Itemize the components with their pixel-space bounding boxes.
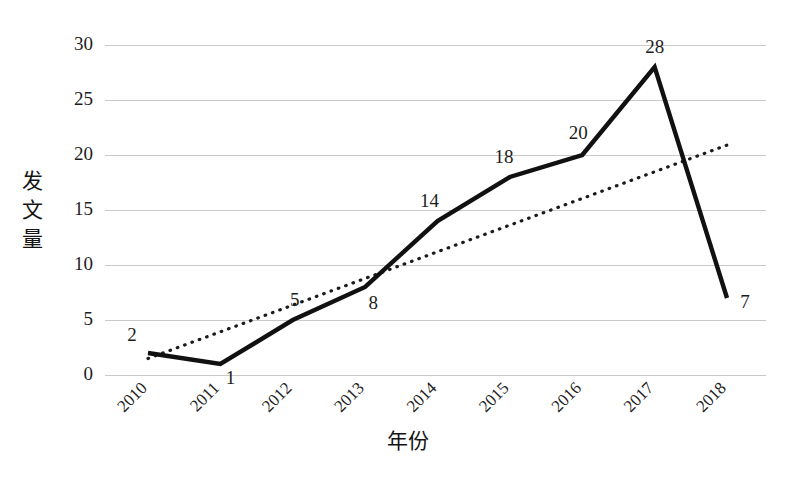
- y-axis-title-char: 量: [22, 227, 43, 251]
- y-axis-title: 发文量: [22, 169, 43, 251]
- y-axis-title-char: 文: [22, 198, 43, 222]
- data-label: 20: [569, 122, 588, 143]
- y-axis-title-char: 发: [22, 169, 43, 193]
- data-label: 14: [420, 190, 440, 211]
- chart-container: 051015202530 201020112012201320142015201…: [0, 0, 796, 488]
- y-axis-tick-label: 15: [74, 198, 93, 219]
- data-label: 7: [740, 291, 750, 312]
- data-label: 5: [290, 289, 300, 310]
- chart-background: [0, 0, 796, 488]
- y-axis-tick-label: 25: [74, 88, 93, 109]
- publication-volume-line-chart: 051015202530 201020112012201320142015201…: [0, 0, 796, 488]
- y-axis-tick-label: 0: [84, 363, 94, 384]
- x-axis-title: 年份: [387, 429, 429, 453]
- data-label: 1: [226, 367, 236, 388]
- data-label: 2: [127, 324, 137, 345]
- data-label: 8: [368, 292, 378, 313]
- y-axis-tick-label: 20: [74, 143, 93, 164]
- data-label: 28: [645, 36, 664, 57]
- y-axis-tick-label: 5: [84, 308, 94, 329]
- y-axis-tick-label: 30: [74, 33, 93, 54]
- data-label: 18: [494, 146, 513, 167]
- y-axis-tick-label: 10: [74, 253, 93, 274]
